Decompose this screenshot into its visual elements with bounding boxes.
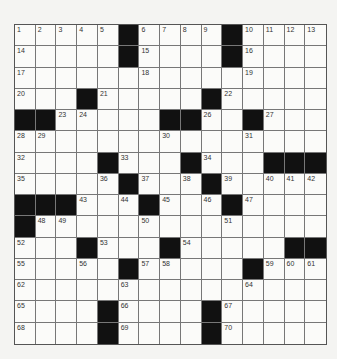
grid-cell[interactable] [139, 153, 160, 174]
grid-cell[interactable] [181, 216, 202, 237]
grid-cell[interactable] [98, 216, 119, 237]
grid-cell[interactable] [264, 238, 285, 259]
grid-cell[interactable] [98, 46, 119, 67]
grid-cell[interactable] [305, 195, 326, 216]
grid-cell[interactable] [36, 323, 57, 344]
grid-cell[interactable] [77, 216, 98, 237]
grid-cell[interactable] [77, 280, 98, 301]
grid-cell[interactable]: 39 [222, 174, 243, 195]
grid-cell[interactable] [98, 131, 119, 152]
grid-cell[interactable] [285, 280, 306, 301]
grid-cell[interactable]: 4 [77, 25, 98, 46]
grid-cell[interactable]: 38 [181, 174, 202, 195]
grid-cell[interactable]: 7 [160, 25, 181, 46]
grid-cell[interactable]: 32 [15, 153, 36, 174]
grid-cell[interactable] [285, 46, 306, 67]
grid-cell[interactable]: 59 [264, 259, 285, 280]
grid-cell[interactable]: 54 [181, 238, 202, 259]
grid-cell[interactable] [243, 174, 264, 195]
grid-cell[interactable] [139, 238, 160, 259]
grid-cell[interactable] [305, 110, 326, 131]
grid-cell[interactable]: 37 [139, 174, 160, 195]
grid-cell[interactable] [77, 153, 98, 174]
grid-cell[interactable] [181, 323, 202, 344]
grid-cell[interactable] [264, 280, 285, 301]
grid-cell[interactable] [139, 280, 160, 301]
grid-cell[interactable] [285, 68, 306, 89]
grid-cell[interactable] [305, 301, 326, 322]
grid-cell[interactable] [160, 216, 181, 237]
grid-cell[interactable]: 68 [15, 323, 36, 344]
grid-cell[interactable] [56, 131, 77, 152]
grid-cell[interactable] [305, 323, 326, 344]
grid-cell[interactable] [264, 195, 285, 216]
grid-cell[interactable] [56, 259, 77, 280]
grid-cell[interactable] [264, 323, 285, 344]
grid-cell[interactable] [264, 301, 285, 322]
grid-cell[interactable] [285, 89, 306, 110]
grid-cell[interactable]: 20 [15, 89, 36, 110]
grid-cell[interactable] [285, 131, 306, 152]
grid-cell[interactable]: 41 [285, 174, 306, 195]
grid-cell[interactable]: 11 [264, 25, 285, 46]
grid-cell[interactable] [202, 46, 223, 67]
grid-cell[interactable]: 64 [243, 280, 264, 301]
grid-cell[interactable] [139, 89, 160, 110]
grid-cell[interactable] [36, 46, 57, 67]
grid-cell[interactable] [36, 238, 57, 259]
grid-cell[interactable] [56, 46, 77, 67]
grid-cell[interactable] [222, 110, 243, 131]
grid-cell[interactable] [119, 110, 140, 131]
grid-cell[interactable]: 51 [222, 216, 243, 237]
grid-cell[interactable]: 3 [56, 25, 77, 46]
grid-cell[interactable] [56, 301, 77, 322]
grid-cell[interactable] [36, 153, 57, 174]
grid-cell[interactable] [305, 46, 326, 67]
grid-cell[interactable] [264, 131, 285, 152]
grid-cell[interactable] [160, 174, 181, 195]
grid-cell[interactable]: 33 [119, 153, 140, 174]
grid-cell[interactable] [160, 153, 181, 174]
grid-cell[interactable]: 66 [119, 301, 140, 322]
grid-cell[interactable] [56, 323, 77, 344]
grid-cell[interactable] [77, 46, 98, 67]
grid-cell[interactable] [243, 323, 264, 344]
grid-cell[interactable] [181, 68, 202, 89]
grid-cell[interactable] [36, 301, 57, 322]
grid-cell[interactable]: 57 [139, 259, 160, 280]
grid-cell[interactable] [181, 131, 202, 152]
grid-cell[interactable] [264, 68, 285, 89]
grid-cell[interactable] [56, 280, 77, 301]
grid-cell[interactable]: 10 [243, 25, 264, 46]
grid-cell[interactable] [119, 131, 140, 152]
grid-cell[interactable] [119, 238, 140, 259]
grid-cell[interactable] [243, 301, 264, 322]
grid-cell[interactable]: 55 [15, 259, 36, 280]
grid-cell[interactable]: 22 [222, 89, 243, 110]
grid-cell[interactable]: 19 [243, 68, 264, 89]
grid-cell[interactable] [264, 216, 285, 237]
grid-cell[interactable] [222, 131, 243, 152]
grid-cell[interactable]: 28 [15, 131, 36, 152]
grid-cell[interactable] [77, 68, 98, 89]
grid-cell[interactable] [264, 46, 285, 67]
grid-cell[interactable] [119, 216, 140, 237]
grid-cell[interactable] [77, 323, 98, 344]
grid-cell[interactable] [285, 195, 306, 216]
grid-cell[interactable]: 40 [264, 174, 285, 195]
grid-cell[interactable]: 17 [15, 68, 36, 89]
grid-cell[interactable]: 53 [98, 238, 119, 259]
grid-cell[interactable]: 27 [264, 110, 285, 131]
grid-cell[interactable] [56, 89, 77, 110]
grid-cell[interactable]: 52 [15, 238, 36, 259]
grid-cell[interactable]: 18 [139, 68, 160, 89]
grid-cell[interactable] [36, 89, 57, 110]
grid-cell[interactable]: 49 [56, 216, 77, 237]
grid-cell[interactable] [56, 174, 77, 195]
grid-cell[interactable]: 61 [305, 259, 326, 280]
grid-cell[interactable] [285, 110, 306, 131]
grid-cell[interactable] [243, 153, 264, 174]
grid-cell[interactable]: 46 [202, 195, 223, 216]
grid-cell[interactable]: 70 [222, 323, 243, 344]
grid-cell[interactable]: 47 [243, 195, 264, 216]
